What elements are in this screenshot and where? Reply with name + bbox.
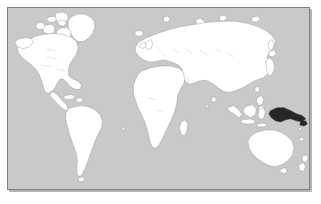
page-root: [0, 0, 321, 204]
region-arctic-islet-a[interactable]: [46, 16, 56, 22]
map-frame-shadow-bottom: [9, 190, 312, 192]
map-frame-shadow-right: [310, 9, 312, 192]
map-frame: [7, 7, 310, 190]
world-map-svg[interactable]: [8, 8, 309, 189]
